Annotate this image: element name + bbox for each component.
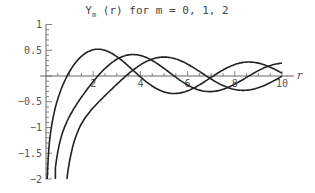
curves [47, 49, 282, 179]
y-tick-label: −1 [30, 122, 42, 133]
x-axis-label: r [297, 69, 303, 82]
series-line-y1 [55, 55, 282, 180]
y-tick-label: −2 [30, 174, 42, 185]
x-tick-label: 10 [276, 78, 288, 89]
chart-title: Ym (r) for m = 0, 1, 2 [85, 4, 228, 19]
y-tick-label: −1.5 [18, 148, 42, 159]
axes: 10.5−0.5−1−1.5−2246810 [18, 19, 294, 185]
chart: Ym (r) for m = 0, 1, 2 10.5−0.5−1−1.5−22… [0, 0, 315, 193]
y-tick-label: 0.5 [24, 45, 42, 56]
y-tick-label: −0.5 [18, 96, 42, 107]
y-tick-label: 1 [36, 19, 42, 30]
